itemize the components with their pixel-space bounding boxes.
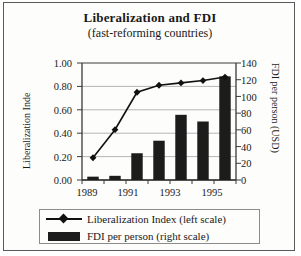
chart-legend: Liberalization Index (left scale) FDI pe…: [39, 209, 260, 244]
legend-label: FDI per person (right scale): [84, 230, 209, 242]
bar-swatch-icon: [44, 229, 84, 243]
bar: [153, 141, 164, 180]
bar: [131, 153, 142, 180]
data-point-marker: [156, 82, 163, 89]
bar: [109, 176, 120, 180]
legend-item-liberalization-index: Liberalization Index (left scale): [40, 211, 259, 227]
line-diamond-marker-icon: [44, 212, 84, 226]
legend-label: Liberalization Index (left scale): [84, 213, 226, 225]
bar: [87, 177, 98, 180]
bar: [175, 115, 186, 180]
data-point-marker: [134, 89, 141, 96]
legend-item-fdi-per-person: FDI per person (right scale): [40, 228, 259, 244]
data-point-marker: [178, 79, 185, 86]
bar: [219, 76, 230, 180]
data-point-marker: [200, 77, 207, 84]
figure-panel: Liberalization and FDI (fast-reforming c…: [3, 2, 295, 251]
bar: [197, 122, 208, 181]
